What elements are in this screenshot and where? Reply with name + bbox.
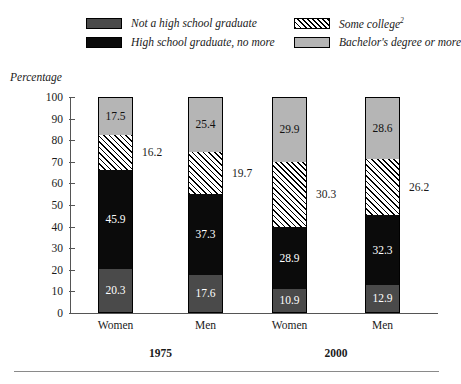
legend-item-label: Not a high school graduate	[131, 18, 257, 30]
bar-segment-value-label: 17.6	[195, 288, 215, 300]
legend-item-not-high-school-graduate: Not a high school graduate	[86, 14, 206, 33]
bar-segment: 28.9	[273, 227, 306, 289]
bar-segment: 32.3	[366, 215, 399, 285]
bar-segment-value-label-outside: 19.7	[232, 167, 252, 179]
legend-swatch-light-gray	[294, 37, 330, 48]
bar-segment-value-label: 37.3	[195, 229, 215, 241]
bar-segment-value-label: 25.4	[195, 119, 215, 131]
x-axis-category-label: Women	[250, 319, 330, 331]
y-axis-title: Percentage	[10, 71, 62, 83]
bar-segment: 12.9	[366, 285, 399, 313]
bar-segment: 37.3	[189, 194, 222, 275]
stacked-bar: 25.419.737.317.6	[188, 97, 223, 313]
y-axis-tick-label: 90	[52, 113, 64, 125]
bar-segment-value-label: 28.6	[372, 123, 392, 135]
y-axis-tick-mark	[69, 248, 75, 249]
y-axis-tick-label: 0	[57, 307, 63, 319]
legend-swatch-hatched	[294, 18, 330, 29]
bar-segment-value-label: 29.9	[279, 124, 299, 136]
bottom-divider	[14, 371, 439, 372]
x-axis-group-label: 1975	[101, 347, 221, 359]
y-axis-tick-mark	[69, 291, 75, 292]
y-axis-tick-mark	[69, 162, 75, 163]
x-axis-category-label: Women	[76, 319, 156, 331]
bar-segment: 30.3	[273, 162, 306, 227]
bar-segment: 28.6	[366, 97, 399, 159]
legend-item-label: Bachelor's degree or more	[339, 37, 461, 49]
bar-segment: 16.2	[99, 135, 132, 170]
y-axis-tick-label: 10	[52, 285, 64, 297]
bar-segment: 29.9	[273, 97, 306, 162]
legend-swatch-dark-gray	[86, 18, 122, 29]
bar-segment-value-label-outside: 26.2	[409, 181, 429, 193]
bar-segment: 25.4	[189, 97, 222, 152]
stacked-bar: 29.930.328.910.9	[272, 97, 307, 313]
bar-segment-value-label-outside: 16.2	[142, 146, 162, 158]
bar-segment-value-label: 20.3	[105, 285, 125, 297]
x-axis-category-label: Men	[166, 319, 246, 331]
y-axis-tick-mark	[69, 140, 75, 141]
bar-segment-value-label: 32.3	[372, 245, 392, 257]
bar-segment: 26.2	[366, 159, 399, 216]
y-axis-tick-mark	[69, 227, 75, 228]
legend-item-label: High school graduate, no more	[131, 37, 275, 49]
y-axis-tick-label: 80	[52, 134, 64, 146]
y-axis-tick-mark	[69, 313, 75, 314]
bar-segment: 20.3	[99, 269, 132, 313]
legend-item-label-text: Some college	[339, 18, 400, 30]
bar-segment-value-label: 10.9	[279, 295, 299, 307]
legend-swatch-black	[86, 37, 122, 48]
y-axis-tick-mark	[69, 119, 75, 120]
legend-item-some-college: Some college2	[294, 14, 461, 33]
y-axis-tick-mark	[69, 270, 75, 271]
x-axis-category-label: Men	[343, 319, 423, 331]
stacked-bar: 28.626.232.312.9	[365, 97, 400, 313]
y-axis-tick-mark	[69, 97, 75, 98]
x-axis-group-label: 2000	[276, 347, 396, 359]
y-axis-tick-mark	[69, 183, 75, 184]
bar-segment: 19.7	[189, 152, 222, 195]
y-axis-tick-label: 30	[52, 242, 64, 254]
stacked-bar: 17.516.245.920.3	[98, 97, 133, 313]
y-axis-tick-mark	[69, 205, 75, 206]
legend-item-high-school-graduate: High school graduate, no more	[86, 33, 206, 52]
bar-segment-value-label: 17.5	[105, 111, 125, 123]
bar-segment-value-label: 28.9	[279, 253, 299, 265]
bar-segment: 45.9	[99, 170, 132, 269]
y-axis-tick-label: 40	[52, 221, 64, 233]
bar-segment-value-label-outside: 30.3	[316, 188, 336, 200]
bar-segment-value-label: 45.9	[105, 214, 125, 226]
y-axis-tick-label: 70	[52, 156, 64, 168]
y-axis-tick-label: 60	[52, 177, 64, 189]
bar-segment: 10.9	[273, 289, 306, 313]
bar-segment: 17.5	[99, 97, 132, 135]
chart-legend: Not a high school graduate Some college2…	[86, 14, 436, 52]
y-axis-tick-label: 50	[52, 199, 64, 211]
bar-segment: 17.6	[189, 275, 222, 313]
plot-area: 1009080706050403020100 16.217.516.245.92…	[70, 97, 438, 313]
bar-segment-value-label: 12.9	[372, 293, 392, 305]
x-axis-baseline	[70, 313, 438, 314]
y-axis-tick-label: 20	[52, 264, 64, 276]
legend-item-bachelors-degree: Bachelor's degree or more	[294, 33, 461, 52]
y-axis-tick-label: 100	[46, 91, 63, 103]
legend-footnote-marker: 2	[400, 16, 404, 25]
legend-item-label: Some college2	[339, 17, 404, 30]
